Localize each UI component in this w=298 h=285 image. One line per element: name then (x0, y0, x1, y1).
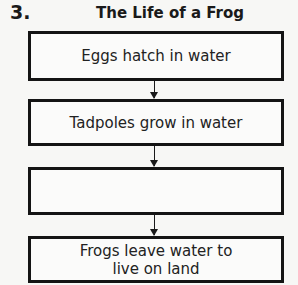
step-box-3-blank[interactable] (28, 167, 284, 215)
step-label: Eggs hatch in water (81, 47, 230, 65)
question-number: 3. (10, 1, 30, 23)
step-box-4: Frogs leave water to live on land (28, 236, 284, 283)
step-label: Frogs leave water to live on land (66, 242, 246, 278)
step-box-2: Tadpoles grow in water (28, 99, 284, 146)
step-label: Tadpoles grow in water (70, 114, 243, 132)
step-box-1: Eggs hatch in water (28, 31, 284, 81)
arrow-down-icon (154, 146, 155, 166)
diagram-title: The Life of a Frog (60, 4, 280, 22)
arrow-down-icon (154, 215, 155, 235)
arrow-down-icon (154, 81, 155, 98)
